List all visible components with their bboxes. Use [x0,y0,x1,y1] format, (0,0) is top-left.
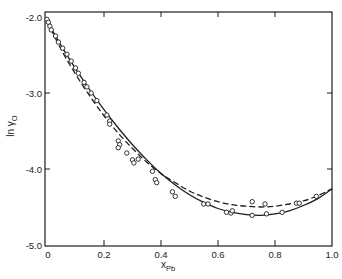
data-point [206,202,210,206]
x-tick-label: 0 [45,249,50,260]
data-point [85,85,89,89]
data-point [230,209,234,213]
data-point [202,202,206,206]
x-tick-label: 0.2 [97,249,110,260]
data-point [89,91,93,95]
data-point [136,157,140,161]
y-tick-label: -2.0 [26,12,42,23]
dashed-curve [47,21,332,207]
x-tick-label: 0.8 [268,249,281,260]
data-point [263,202,267,206]
solid-curve [47,21,332,216]
data-point [173,194,177,198]
data-point [170,190,174,194]
y-tick-label: -5.0 [26,240,42,251]
chart: 00.20.40.60.81.0 -2.0-3.0-4.0-5.0 xPb ln… [0,0,342,279]
data-point [53,34,57,38]
x-tick-label: 1.0 [325,249,338,260]
data-point [150,169,154,173]
data-point [108,122,112,126]
x-tick-label: 0.6 [211,249,224,260]
data-point [250,213,254,217]
data-point [82,80,86,84]
data-point [125,151,129,155]
y-axis-ticks: -2.0-3.0-4.0-5.0 [26,12,332,251]
data-points [45,17,319,217]
data-point [65,52,69,56]
data-point [264,212,268,216]
data-point [224,210,228,214]
data-point [250,199,254,203]
x-axis-label: xPb [161,259,175,273]
data-point [73,66,77,70]
data-point [297,201,301,205]
y-axis-label: ln γO [5,115,19,137]
data-point [280,210,284,214]
y-tick-label: -4.0 [26,164,42,175]
fit-curves [47,21,332,216]
data-point [132,161,136,165]
data-point [105,113,109,117]
data-point [56,40,60,44]
x-axis-ticks: 00.20.40.60.81.0 [45,12,338,260]
data-point [155,180,159,184]
data-point [60,46,64,50]
data-point [69,59,73,63]
data-point [49,28,53,32]
data-point [314,194,318,198]
data-point [116,146,120,150]
y-tick-label: -3.0 [26,88,42,99]
data-point [95,98,99,102]
data-point [76,71,80,75]
